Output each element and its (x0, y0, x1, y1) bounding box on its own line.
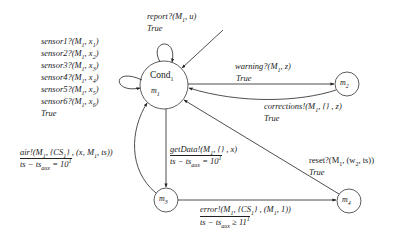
state-cond1-name-text: Cond (150, 70, 171, 80)
sensors-self-loop (119, 76, 142, 89)
air-action-text: air!(M (20, 147, 43, 157)
air-guard-sub: aux (41, 165, 50, 171)
sensor4-pre: sensor4?(M (41, 72, 82, 82)
warning-action-label: warning?(M1, z) (235, 61, 291, 71)
sensor6-label: sensor6?(M1, x6) (41, 96, 98, 106)
air-guard: ts − tsaux = 101 (20, 158, 72, 169)
sensor2-post: ) (96, 48, 99, 58)
error-guard-pre: ts − ts (200, 217, 221, 227)
error-action-tail: } , (M (254, 204, 274, 214)
sensor1-mid: , x (85, 36, 93, 46)
sensor6-mid: , x (85, 96, 93, 106)
sensor3-label: sensor3?(M1, x3) (41, 60, 98, 70)
sensor2-mid: , x (85, 48, 93, 58)
report-action-label: report?(M1, u) (147, 11, 196, 21)
state-m4-label: m4 (342, 195, 351, 204)
getdata-action-label: getData!(M1, {} , x) (170, 144, 237, 154)
corrections-action-label: corrections!(M1, {} , z) (264, 101, 342, 111)
getdata-action-tail: , {} , x) (213, 144, 237, 154)
air-action-tail: } , (x, M (66, 147, 94, 157)
sensor4-mid: , x (85, 72, 93, 82)
sensor4-post: ) (96, 72, 99, 82)
initial-arrow (182, 30, 223, 68)
state-cond1-mode: m1 (151, 86, 160, 95)
sensors-guard-label: True (41, 108, 98, 118)
warning-guard-label: True (236, 73, 252, 83)
state-cond1-mode-sub: 1 (157, 91, 160, 97)
error-guard-sup: 1 (247, 216, 250, 222)
sensor5-post: ) (96, 84, 99, 94)
sensor5-mid: , x (85, 84, 93, 94)
air-guard-pre: ts − ts (20, 159, 41, 169)
getdata-guard-post: = 10 (200, 156, 219, 166)
getdata-guard: ts − tsaux = 101 (170, 155, 222, 166)
sensor1-post: ) (96, 36, 99, 46)
report-self-loop (157, 44, 173, 62)
sensor2-label: sensor2?(M1, x2) (41, 48, 98, 58)
sensor2-pre: sensor2?(M (41, 48, 82, 58)
warning-action-tail: , z) (281, 61, 291, 71)
warning-action-text: warning?(M (235, 61, 278, 71)
reset-action-tail: , ts)) (358, 155, 374, 165)
state-cond1-name-sub: 1 (171, 76, 174, 82)
sensor5-label: sensor5?(M1, x5) (41, 84, 98, 94)
report-action-text: report?(M (147, 11, 182, 21)
state-m2-label: m2 (340, 78, 349, 87)
state-m3-sub: 3 (165, 199, 168, 205)
air-guard-sup: 1 (69, 158, 72, 164)
sensor6-pre: sensor6?(M (41, 96, 82, 106)
getdata-action-text: getData!(M (170, 144, 210, 154)
air-guard-post: = 10 (50, 159, 69, 169)
corrections-arrow (189, 88, 336, 100)
reset-action-text: reset?(M (309, 155, 339, 165)
corrections-action-tail: , {} , z) (318, 101, 342, 111)
getdata-guard-label: ts − tsaux = 101 (170, 155, 222, 166)
error-action-label: error!(M1, {CS1} , (M1, 1)) (200, 204, 291, 214)
state-cond1 (140, 61, 188, 109)
state-m3-label: m3 (159, 194, 168, 203)
corrections-guard-label: True (264, 113, 280, 123)
error-guard-post: ≥ 11 (230, 217, 247, 227)
error-guard: ts − tsaux ≥ 111 (200, 216, 250, 227)
error-action-mid: , {CS (233, 204, 251, 214)
air-action-tail2: , ts)) (97, 147, 113, 157)
sensor3-post: ) (96, 60, 99, 70)
getdata-guard-pre: ts − ts (170, 156, 191, 166)
sensors-label-block: sensor1?(M1, x1) sensor2?(M1, x2) sensor… (41, 36, 98, 118)
getdata-guard-sub: aux (191, 162, 200, 168)
air-arrow (135, 103, 156, 193)
error-guard-sub: aux (221, 223, 230, 229)
error-action-text: error!(M (200, 204, 230, 214)
air-action-mid: , {CS (46, 147, 64, 157)
error-action-tail2: , 1)) (277, 204, 291, 214)
reset-action-mid: , (w (342, 155, 355, 165)
corrections-action-text: corrections!(M (264, 101, 315, 111)
air-guard-label: ts − tsaux = 101 (20, 158, 72, 169)
state-m4-sub: 4 (348, 200, 351, 206)
sensor3-pre: sensor3?(M (41, 60, 82, 70)
state-cond1-name: Cond1 (150, 70, 174, 80)
report-guard-label: True (147, 23, 163, 33)
sensor1-pre: sensor1?(M (41, 36, 82, 46)
reset-guard-label: True (309, 167, 325, 177)
report-action-tail: , u) (185, 11, 196, 21)
sensor1-label: sensor1?(M1, x1) (41, 36, 98, 46)
sensor6-post: ) (96, 96, 99, 106)
error-guard-label: ts − tsaux ≥ 111 (200, 216, 250, 227)
sensor3-mid: , x (85, 60, 93, 70)
air-action-label: air!(M1, {CS1} , (x, M1, ts)) (20, 147, 113, 157)
state-m2-sub: 2 (346, 83, 349, 89)
sensor5-pre: sensor5?(M (41, 84, 82, 94)
sensor4-label: sensor4?(M1, x4) (41, 72, 98, 82)
reset-action-label: reset?(M1, (w2, ts)) (309, 155, 374, 165)
getdata-guard-sup: 1 (219, 155, 222, 161)
